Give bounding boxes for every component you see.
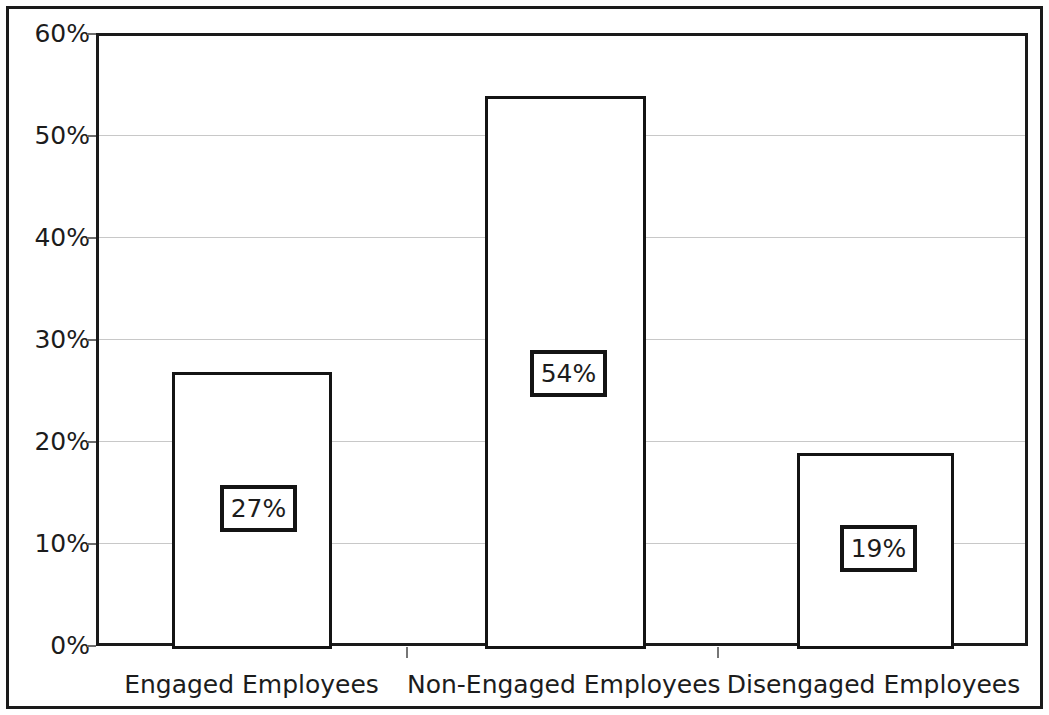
y-axis-tick-label-20: 20% — [4, 429, 90, 454]
y-axis-tick-mark-30 — [87, 339, 96, 341]
y-axis-tick-mark-20 — [87, 441, 96, 443]
y-axis-tick-mark-60 — [87, 33, 96, 35]
data-label-engaged-employees: 27% — [220, 485, 297, 532]
plot-area: 27% 54% 19% — [96, 33, 1028, 646]
x-axis-separator-tick-1 — [406, 647, 408, 658]
y-axis-tick-mark-10 — [87, 543, 96, 545]
y-axis-tick-label-40: 40% — [4, 225, 90, 250]
y-axis-tick-mark-50 — [87, 135, 96, 137]
data-label-disengaged-employees: 19% — [840, 525, 917, 572]
y-axis-tick-label-30: 30% — [4, 327, 90, 352]
x-axis-category-label-non-engaged-employees: Non-Engaged Employees — [407, 672, 718, 697]
y-axis-tick-label-0: 0% — [4, 633, 90, 658]
x-axis-category-label-disengaged-employees: Disengaged Employees — [718, 672, 1029, 697]
y-axis-tick-label-60: 60% — [4, 21, 90, 46]
y-axis-tick-label-50: 50% — [4, 123, 90, 148]
data-label-non-engaged-employees: 54% — [530, 350, 607, 397]
y-axis-tick-mark-40 — [87, 237, 96, 239]
chart-container: 60% 50% 40% 30% 20% 10% 0% 27% 54% 19% — [0, 0, 1049, 715]
x-axis-category-label-engaged-employees: Engaged Employees — [96, 672, 407, 697]
x-axis-separator-tick-2 — [717, 647, 719, 658]
y-axis-tick-label-10: 10% — [4, 531, 90, 556]
y-axis-tick-mark-0 — [87, 645, 96, 647]
